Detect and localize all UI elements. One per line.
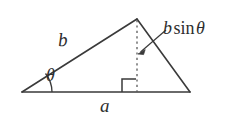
label-altitude-theta: θ: [196, 18, 205, 38]
label-angle-theta-text: θ: [46, 65, 55, 85]
label-side-b: b: [58, 30, 68, 49]
label-angle-theta: θ: [46, 66, 55, 84]
label-side-a: a: [100, 96, 110, 115]
label-altitude-sin: sin: [174, 18, 195, 38]
label-altitude-b-sin-theta: bsinθ: [163, 19, 205, 37]
right-angle-marker-icon: [122, 79, 136, 92]
triangle-figure: b a θ bsinθ: [0, 0, 233, 116]
triangle-side-b: [22, 19, 137, 92]
label-side-b-text: b: [58, 29, 68, 50]
label-altitude-b: b: [163, 18, 172, 38]
label-side-a-text: a: [100, 95, 110, 116]
